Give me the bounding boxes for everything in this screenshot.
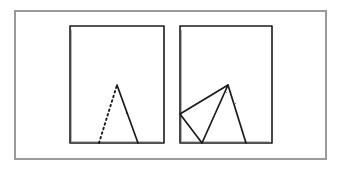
figure-root: Two hand-drawn panels showing a polygon … [0,0,340,169]
right-panel [180,26,272,143]
canvas-background [0,0,340,169]
right-panel-box [180,26,272,143]
hand-drawn-diagram [0,0,340,169]
left-panel [70,26,164,143]
